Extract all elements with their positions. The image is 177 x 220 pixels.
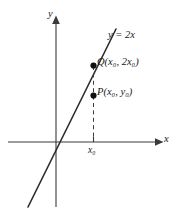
- x-axis-label-text: x: [164, 133, 169, 144]
- coordinate-plot: [0, 0, 177, 220]
- point-q-marker: [90, 62, 96, 68]
- line-equation-label: y = 2x: [108, 30, 135, 41]
- point-p-label-text: P(x₀, y₀): [97, 86, 132, 97]
- x-axis-label: x: [164, 134, 169, 145]
- y-axis: [52, 16, 60, 208]
- line-equation-text: y = 2x: [108, 29, 135, 40]
- point-q-label-text: Q(x₀, 2x₀): [97, 56, 139, 67]
- y-axis-arrowhead: [52, 16, 60, 25]
- figure-canvas: y = 2x Q(x₀, 2x₀) P(x₀, y₀) x₀ x y: [0, 0, 177, 220]
- y-axis-label-text: y: [48, 8, 53, 19]
- x-axis-arrowhead: [155, 138, 164, 146]
- point-p-label: P(x₀, y₀): [97, 87, 132, 98]
- y-axis-label: y: [48, 9, 53, 20]
- x-axis: [8, 138, 164, 146]
- point-q-label: Q(x₀, 2x₀): [97, 57, 139, 68]
- x0-tick-label: x₀: [88, 146, 96, 156]
- point-p-marker: [90, 92, 96, 98]
- x0-tick-label-text: x₀: [88, 145, 96, 155]
